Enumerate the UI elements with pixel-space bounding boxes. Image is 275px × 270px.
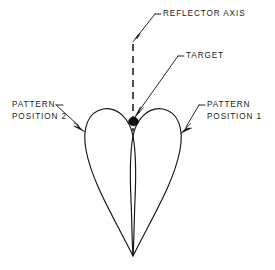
left-lobe-pattern-position-2 <box>85 109 136 256</box>
target-point-marker <box>129 117 139 126</box>
reflector-axis-leader-line <box>136 14 155 38</box>
reflector-axis-arrowhead <box>133 34 141 43</box>
pattern-position-1-label-line1: PATTERN <box>207 100 250 109</box>
reflector-axis-annotation: REFLECTOR AXIS <box>133 9 246 42</box>
reflector-axis-label: REFLECTOR AXIS <box>163 9 246 18</box>
pattern-position-2-label-line2: POSITION 2 <box>12 112 67 121</box>
right-lobe-pattern-position-1 <box>130 109 181 256</box>
pattern-position-1-leader-line <box>186 105 199 127</box>
target-leader-line <box>139 56 178 111</box>
reflector-pattern-diagram: REFLECTOR AXIS TARGET PATTERN POSITION 2… <box>0 0 275 270</box>
pattern-position-1-label-line2: POSITION 1 <box>207 112 262 121</box>
target-label: TARGET <box>186 51 224 60</box>
pattern-position-2-label-line1: PATTERN <box>12 100 55 109</box>
pattern-position-1-arrowhead <box>181 123 192 133</box>
pattern-position-2-arrowhead <box>73 123 85 132</box>
diagram-canvas: REFLECTOR AXIS TARGET PATTERN POSITION 2… <box>0 0 275 270</box>
pattern-position-2-annotation: PATTERN POSITION 2 <box>12 100 85 132</box>
pattern-position-1-annotation: PATTERN POSITION 1 <box>181 100 262 133</box>
